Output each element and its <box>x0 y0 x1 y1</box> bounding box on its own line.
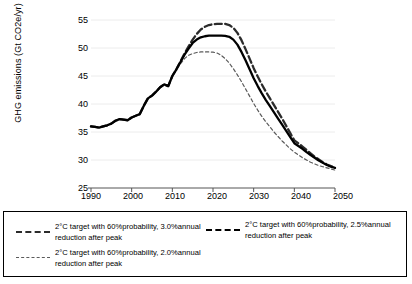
x-tick-2040: 2040 <box>281 191 321 201</box>
legend-label-2pct: 2°C target with 60%probability, 2.0%annu… <box>55 248 201 269</box>
legend-key-solid-icon <box>206 223 240 235</box>
x-tick-2050: 2050 <box>323 191 363 201</box>
legend-label-25pct: 2°C target with 60%probability, 2.5%annu… <box>245 220 391 241</box>
x-tick-2010: 2010 <box>155 191 195 201</box>
x-tick-2000: 2000 <box>113 191 153 201</box>
series-line <box>91 52 335 170</box>
legend-key-dashed-thick-icon <box>16 225 50 237</box>
series-lines <box>91 24 335 170</box>
legend: 2°C target with 60%probability, 3.0%annu… <box>3 211 407 277</box>
legend-label-3pct: 2°C target with 60%probability, 3.0%annu… <box>55 222 201 243</box>
x-tick-2020: 2020 <box>197 191 237 201</box>
gridlines <box>91 20 335 160</box>
plot-area: GHG emissions (Gt CO2e/yr) 55 50 45 40 3… <box>0 0 412 206</box>
series-line <box>91 36 335 168</box>
legend-item-25pct: 2°C target with 60%probability, 2.5%annu… <box>206 220 402 241</box>
x-tick-2030: 2030 <box>239 191 279 201</box>
legend-key-dashed-thin-icon <box>16 251 50 263</box>
legend-item-2pct: 2°C target with 60%probability, 2.0%annu… <box>16 248 216 269</box>
legend-item-3pct: 2°C target with 60%probability, 3.0%annu… <box>16 222 216 243</box>
x-tick-1990: 1990 <box>71 191 111 201</box>
figure: GHG emissions (Gt CO2e/yr) 55 50 45 40 3… <box>0 0 412 284</box>
chart-canvas <box>0 0 412 206</box>
